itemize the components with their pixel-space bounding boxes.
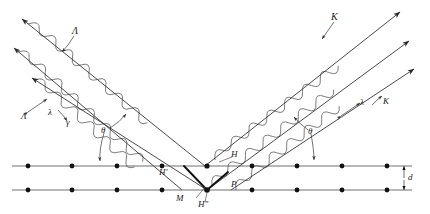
atom — [70, 188, 75, 193]
figure-canvas — [0, 0, 430, 214]
label-lambda-capital-left: Λ — [21, 112, 26, 121]
point-leaders — [196, 157, 232, 202]
atom — [250, 164, 255, 169]
label-theta-left: θ — [101, 126, 105, 135]
K-right-leader — [322, 22, 334, 39]
lambda-right-leader — [372, 96, 382, 105]
atom — [26, 188, 31, 193]
atom — [70, 164, 75, 169]
outgoing-wave-3 — [232, 99, 342, 195]
atom — [340, 188, 345, 193]
segment-H-to-Hpp — [184, 166, 207, 190]
wavelength-measure-right — [322, 22, 382, 116]
incident-ray-1 — [22, 19, 205, 166]
label-lambda-small-right: λ — [360, 98, 364, 107]
label-lambda-small-left: λ — [48, 108, 52, 117]
theta-right-arc — [311, 134, 314, 160]
incident-wave-3 — [30, 75, 140, 171]
label-K-right: K — [383, 97, 389, 106]
atom — [340, 164, 345, 169]
M-leader — [196, 187, 205, 198]
label-gamma-left: γ — [66, 118, 70, 127]
label-point-P: P — [231, 180, 237, 189]
label-theta-right: θ — [308, 127, 312, 136]
atom — [385, 164, 390, 169]
label-K-outgoing: K — [331, 12, 338, 22]
label-lambda-capital-incident: Λ — [72, 26, 78, 36]
lambda-left-bracket — [28, 99, 47, 112]
incident-ray-2 — [14, 48, 182, 190]
outgoing-ray-2 — [207, 41, 409, 190]
label-point-H-double-prime: H″ — [198, 200, 208, 209]
theta-left-pointer — [110, 114, 126, 128]
atom — [385, 188, 390, 193]
label-point-H-prime: H′ — [159, 168, 167, 177]
lambda-right-bracket — [341, 103, 360, 116]
outgoing-ray-3 — [231, 69, 414, 190]
segment-Hpp-to-P — [207, 172, 228, 190]
path-difference-triangle — [184, 166, 228, 190]
label-spacing-d: d — [408, 173, 413, 182]
atom — [204, 163, 209, 168]
atom — [115, 164, 120, 169]
label-point-M: M — [176, 194, 184, 203]
label-point-H: H — [231, 150, 238, 159]
incident-rays — [14, 19, 207, 190]
atom — [26, 164, 31, 169]
atom — [250, 188, 255, 193]
incident-ray-3 — [32, 78, 207, 190]
atom — [295, 164, 300, 169]
atom — [295, 188, 300, 193]
atom — [160, 188, 165, 193]
atom — [115, 188, 120, 193]
bragg-diffraction-figure: Λ K Λ λ γ λ K θ θ H′ H H″ M P d — [0, 0, 430, 214]
